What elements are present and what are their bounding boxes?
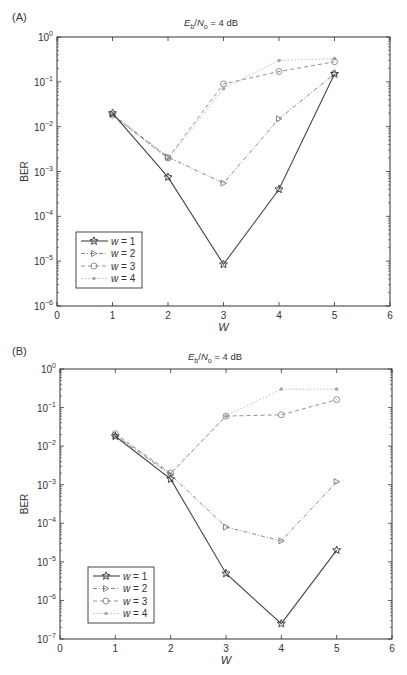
plot-area: 012345610010−110−210−310−410−510−6WBERw … <box>0 0 407 335</box>
legend: w = 1w = 2w = 3w = 4 <box>76 232 142 288</box>
y-tick-label: 10−5 <box>37 555 56 568</box>
legend-label: w = 2 <box>123 583 148 594</box>
y-tick-label: 10−4 <box>37 516 56 529</box>
legend-label: w = 2 <box>111 248 136 259</box>
dot-marker-icon <box>222 87 226 91</box>
legend-label: w = 3 <box>111 261 136 272</box>
y-tick-label: 10−2 <box>37 439 56 452</box>
dot-marker-icon <box>280 387 284 391</box>
y-tick-label: 10−2 <box>34 120 53 133</box>
x-tick-label: 0 <box>54 310 60 321</box>
x-tick-label: 2 <box>165 310 171 321</box>
x-tick-label: 1 <box>113 643 119 654</box>
y-tick-label: 10−1 <box>34 75 53 88</box>
legend-label: w = 1 <box>123 571 148 582</box>
x-tick-label: 1 <box>110 310 116 321</box>
y-tick-label: 10−1 <box>37 401 56 414</box>
dot-marker-icon <box>92 277 96 281</box>
series-4 <box>111 57 337 161</box>
circle-marker-icon <box>278 412 284 418</box>
y-tick-label: 10−5 <box>34 254 53 267</box>
series-3 <box>110 59 338 161</box>
x-tick-label: 0 <box>57 643 63 654</box>
x-tick-label: 5 <box>334 643 340 654</box>
triangle-marker-icon <box>334 479 340 485</box>
y-tick-label: 10−6 <box>34 299 53 312</box>
x-axis-label: W <box>221 654 233 666</box>
y-tick-label: 10−3 <box>34 165 53 178</box>
x-tick-label: 6 <box>389 643 395 654</box>
x-tick-label: 5 <box>332 310 338 321</box>
y-tick-label: 10−6 <box>37 593 56 606</box>
x-tick-label: 2 <box>168 643 174 654</box>
y-tick-label: 100 <box>38 30 53 43</box>
x-tick-label: 3 <box>223 643 229 654</box>
star-marker-icon <box>333 546 341 554</box>
x-axis-label: W <box>218 321 230 333</box>
series-3 <box>112 397 339 476</box>
panel-b: (B) Eb/No = 4 dB 012345610010−110−210−31… <box>0 335 407 675</box>
dot-marker-icon <box>277 59 281 63</box>
legend-label: w = 3 <box>123 596 148 607</box>
y-axis-label: BER <box>19 494 30 515</box>
x-tick-label: 4 <box>276 310 282 321</box>
x-tick-label: 4 <box>279 643 285 654</box>
triangle-marker-icon <box>221 180 227 186</box>
y-tick-label: 10−7 <box>37 632 56 645</box>
panel-a: (A) Eb/No = 4 dB 012345610010−110−210−31… <box>0 0 407 335</box>
series-2 <box>113 432 340 543</box>
y-axis-label: BER <box>19 161 30 182</box>
dot-marker-icon <box>335 387 339 391</box>
y-tick-label: 10−3 <box>37 478 56 491</box>
legend-label: w = 4 <box>111 273 136 284</box>
legend-label: w = 1 <box>111 236 136 247</box>
series-1 <box>109 70 339 268</box>
y-tick-label: 10−4 <box>34 209 53 222</box>
legend: w = 1w = 2w = 3w = 4 <box>88 567 154 623</box>
dot-marker-icon <box>104 612 108 616</box>
series-4 <box>114 387 339 475</box>
legend-label: w = 4 <box>123 608 148 619</box>
x-tick-label: 3 <box>221 310 227 321</box>
y-tick-label: 100 <box>41 362 56 375</box>
plot-area: 012345610010−110−210−310−410−510−610−7WB… <box>0 335 407 675</box>
series-line <box>113 74 335 264</box>
x-tick-label: 6 <box>387 310 393 321</box>
